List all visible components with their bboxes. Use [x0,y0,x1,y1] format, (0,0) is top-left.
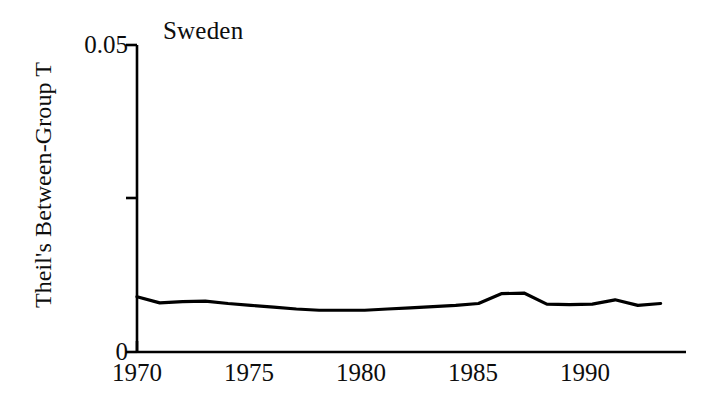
plot-area [0,0,721,407]
chart-figure: Sweden Theil's Between-Group T 0.05 0 19… [0,0,721,407]
data-series-line [137,293,661,310]
